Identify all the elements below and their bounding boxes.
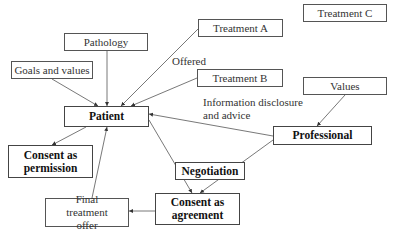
edge-patient-consent-agreement bbox=[149, 120, 192, 193]
edge-treatment-b-patient bbox=[131, 78, 197, 106]
node-goals-and-values: Goals and values bbox=[11, 61, 93, 79]
node-negotiation: Negotiation bbox=[175, 162, 245, 180]
node-treatment-a: Treatment A bbox=[198, 19, 283, 37]
node-patient: Patient bbox=[64, 106, 149, 127]
node-label: Final treatment offer bbox=[56, 193, 118, 232]
node-label: Goals and values bbox=[14, 64, 89, 77]
node-values: Values bbox=[303, 77, 387, 95]
node-pathology: Pathology bbox=[64, 33, 148, 51]
node-label: Treatment A bbox=[213, 22, 268, 35]
node-professional: Professional bbox=[273, 126, 372, 145]
node-label: Values bbox=[330, 80, 359, 93]
node-label: Consent as permission bbox=[23, 149, 78, 175]
edge-final-offer-patient bbox=[92, 127, 107, 198]
node-label: Treatment B bbox=[213, 72, 268, 85]
node-label: Pathology bbox=[84, 36, 129, 49]
node-treatment-c: Treatment C bbox=[303, 4, 387, 22]
node-consent-as-permission: Consent as permission bbox=[8, 145, 93, 178]
node-label: Patient bbox=[89, 110, 124, 123]
node-label: Professional bbox=[293, 129, 353, 142]
edge-values-professional bbox=[317, 95, 345, 126]
node-consent-as-agreement: Consent as agreement bbox=[155, 193, 240, 225]
node-label: Negotiation bbox=[182, 165, 239, 178]
edge-goals-patient bbox=[52, 79, 98, 106]
label-info-disclosure: Information disclosure bbox=[203, 95, 303, 109]
label-and-advice: and advice bbox=[203, 108, 250, 122]
node-label: Consent as agreement bbox=[170, 196, 225, 222]
label-offered: Offered bbox=[172, 54, 206, 68]
node-label: Treatment C bbox=[318, 7, 373, 20]
edge-patient-consent-permission bbox=[52, 127, 86, 145]
node-treatment-b: Treatment B bbox=[197, 69, 283, 87]
node-final-treatment-offer: Final treatment offer bbox=[45, 198, 129, 227]
